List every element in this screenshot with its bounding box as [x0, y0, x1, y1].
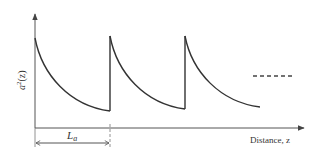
decay-curve-2 — [110, 36, 185, 109]
period-label: La — [66, 129, 77, 143]
y-axis-label: a2(z) — [15, 70, 28, 90]
decay-curve-3 — [185, 36, 260, 107]
diagram-canvas: La a2(z) Distance, z — [0, 0, 319, 154]
decay-curve-1 — [35, 38, 110, 111]
x-axis-label: Distance, z — [250, 135, 290, 145]
